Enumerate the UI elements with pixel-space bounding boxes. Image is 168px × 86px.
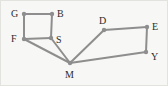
graph-node-s: [49, 36, 53, 40]
graph-node-label-e: E: [152, 22, 158, 32]
graph-node-label-d: D: [99, 16, 106, 26]
graph-node-e: [145, 25, 149, 29]
graph-edge-b-s: [51, 14, 52, 38]
graph-node-g: [22, 12, 26, 16]
graph-node-d: [102, 28, 106, 32]
graph-node-m: [68, 61, 72, 65]
graph-node-label-y: Y: [151, 52, 158, 62]
graph-edge-d-e: [104, 27, 147, 30]
graph-diagram: GBFSDEYM: [0, 0, 168, 86]
graph-edge-e-y: [146, 27, 147, 52]
graph-node-label-s: S: [56, 35, 62, 45]
graph-edge-y-m: [70, 52, 146, 63]
graph-node-label-b: B: [57, 9, 64, 19]
graph-node-label-g: G: [11, 9, 18, 19]
graph-node-b: [50, 12, 54, 16]
graph-canvas: [0, 0, 168, 86]
graph-node-label-f: F: [11, 34, 17, 44]
graph-edge-f-s: [24, 38, 51, 39]
graph-node-f: [22, 37, 26, 41]
graph-node-y: [144, 50, 148, 54]
edge-layer: [24, 14, 147, 63]
graph-edge-f-m: [24, 39, 70, 63]
graph-node-label-m: M: [65, 70, 74, 80]
